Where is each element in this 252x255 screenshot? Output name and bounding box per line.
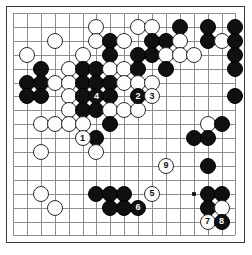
goban-board[interactable] <box>6 6 245 243</box>
go-diagram: 423195678 <box>0 0 252 255</box>
